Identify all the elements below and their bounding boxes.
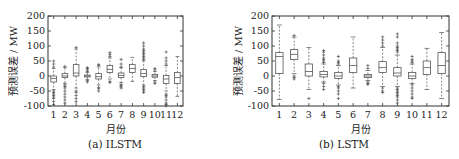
box-month-9 xyxy=(394,32,401,104)
box-month-7 xyxy=(118,58,124,90)
y-tick-label: -100 xyxy=(248,100,269,111)
box-month-1 xyxy=(276,25,283,99)
x-tick-label: 9 xyxy=(394,109,400,120)
x-tick-label: 3 xyxy=(73,109,79,120)
x-tick-label: 5 xyxy=(335,109,341,120)
box-month-8 xyxy=(379,35,386,94)
box-month-7 xyxy=(364,64,371,86)
boxplot-lstm: -100-50050100150200123456789101112月份预测误差… xyxy=(229,0,459,159)
x-tick-label: 1 xyxy=(51,109,57,120)
y-axis-label: 预测误差 / MW xyxy=(7,25,19,96)
plot-frame xyxy=(48,16,183,106)
box-month-11 xyxy=(423,48,430,89)
y-tick-label: 150 xyxy=(251,25,269,36)
y-tick-label: -50 xyxy=(254,85,269,96)
x-tick-label: 1 xyxy=(276,109,282,120)
box-month-6 xyxy=(349,37,356,88)
x-tick-label: 11 xyxy=(421,109,433,120)
y-tick-label: 0 xyxy=(39,70,45,81)
boxplot-ilstm: -100-50050100150200123456789101112月份预测误差… xyxy=(0,0,230,159)
x-tick-label: 4 xyxy=(84,109,90,120)
box-month-10 xyxy=(408,55,415,100)
x-tick-label: 6 xyxy=(107,109,113,120)
caption-ilstm: (a) ILSTM xyxy=(0,138,230,150)
y-tick-label: 150 xyxy=(27,25,45,36)
box-month-8 xyxy=(130,57,136,81)
x-tick-label: 2 xyxy=(291,109,297,120)
x-tick-label: 3 xyxy=(306,109,312,120)
plot-frame xyxy=(272,16,449,106)
x-tick-label: 10 xyxy=(406,109,418,120)
x-axis-label: 月份 xyxy=(106,124,126,135)
y-tick-label: 100 xyxy=(27,40,45,51)
box-month-6 xyxy=(107,51,113,84)
box-month-1 xyxy=(51,59,57,106)
y-tick-label: 0 xyxy=(263,70,269,81)
y-tick-label: -50 xyxy=(30,85,45,96)
y-tick-label: 50 xyxy=(257,55,269,66)
box-month-2 xyxy=(290,34,297,81)
box-month-3 xyxy=(73,46,79,103)
box-month-11 xyxy=(163,50,169,107)
box-month-9 xyxy=(141,41,147,94)
x-tick-label: 4 xyxy=(321,109,327,120)
x-axis-label: 月份 xyxy=(351,124,371,135)
box-month-3 xyxy=(305,48,312,101)
y-tick-label: 200 xyxy=(251,10,269,21)
box-month-5 xyxy=(96,63,102,93)
y-tick-label: 100 xyxy=(251,40,269,51)
x-tick-label: 8 xyxy=(129,109,135,120)
x-tick-label: 7 xyxy=(118,109,124,120)
x-tick-label: 5 xyxy=(96,109,102,120)
x-tick-label: 12 xyxy=(436,109,448,120)
x-tick-label: 8 xyxy=(380,109,386,120)
x-tick-label: 6 xyxy=(350,109,356,120)
box-month-2 xyxy=(62,65,68,105)
y-tick-label: 200 xyxy=(27,10,45,21)
x-tick-label: 7 xyxy=(365,109,371,120)
y-tick-label: 50 xyxy=(33,55,45,66)
y-tick-label: -100 xyxy=(24,100,45,111)
box-month-4 xyxy=(320,49,327,91)
chart-panel-lstm: -100-50050100150200123456789101112月份预测误差… xyxy=(229,0,459,159)
x-tick-label: 12 xyxy=(171,109,183,120)
caption-lstm: (b) LSTM xyxy=(229,138,459,150)
box-month-10 xyxy=(152,67,158,85)
y-axis-label: 预测误差 / MW xyxy=(232,25,244,96)
box-month-12 xyxy=(175,57,181,97)
box-month-12 xyxy=(438,33,445,99)
box-month-5 xyxy=(335,55,342,100)
x-tick-label: 9 xyxy=(141,109,147,120)
x-tick-label: 2 xyxy=(62,109,68,120)
box-month-4 xyxy=(85,66,91,84)
chart-panel-ilstm: -100-50050100150200123456789101112月份预测误差… xyxy=(0,0,230,159)
